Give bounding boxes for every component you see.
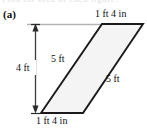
height-arrow-down-icon	[32, 106, 38, 114]
parallelogram-outline	[41, 24, 143, 113]
part-label: (a)	[3, 9, 16, 20]
bottom-edge-length-label: 1 ft 4 in	[36, 116, 67, 126]
top-edge-length-label: 1 ft 4 in	[95, 9, 126, 19]
right-side-length-label: 5 ft	[106, 74, 120, 84]
left-side-length-label: 5 ft	[51, 54, 65, 64]
figure-container: Find the area of each figure. (a) 1 ft 4…	[0, 0, 147, 134]
height-length-label: 4 ft	[16, 63, 30, 73]
